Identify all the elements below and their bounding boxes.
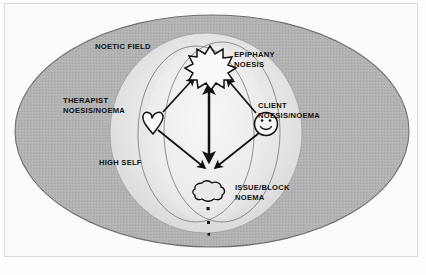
label-issue-block-noema: ISSUE/BLOCK NOEMA [235, 183, 290, 202]
label-high-self: HIGH SELF [99, 158, 142, 168]
diagram-page: NOETIC FIELD EPIPHANY NOESIS THERAPIST N… [0, 0, 426, 275]
diagram-canvas [0, 0, 426, 275]
label-epiphany-noesis: EPIPHANY NOESIS [234, 50, 275, 69]
label-noetic-field: NOETIC FIELD [95, 42, 151, 52]
cloud-blob-icon [193, 181, 225, 202]
label-client-noesis-noema: CLIENT NOESIS/NOEMA [258, 101, 320, 120]
label-therapist-noesis-noema: THERAPIST NOESIS/NOEMA [63, 96, 125, 115]
